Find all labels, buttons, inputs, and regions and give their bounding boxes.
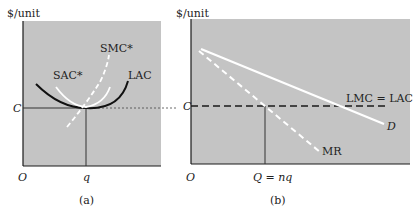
panel-b-y-axis-label: $/unit xyxy=(176,8,209,19)
panel-b-q-label: Q = nq xyxy=(253,172,292,183)
panel-a-c-label: C xyxy=(13,103,21,114)
smc-label: SMC* xyxy=(100,43,133,54)
panel-b-caption: (b) xyxy=(270,195,286,206)
mr-label: MR xyxy=(322,146,342,157)
panel-a-caption: (a) xyxy=(79,195,94,206)
panel-a-y-axis-label: $/unit xyxy=(7,8,40,19)
lmc-lac-label: LMC = LAC xyxy=(346,93,413,104)
panel-a-origin-label: O xyxy=(18,172,27,183)
panel-b-origin-label: O xyxy=(186,172,195,183)
diagram-canvas xyxy=(0,0,418,214)
sac-label: SAC* xyxy=(53,70,82,81)
demand-label: D xyxy=(387,121,396,132)
lac-label: LAC xyxy=(128,70,152,81)
panel-b-c-label: C xyxy=(183,101,191,112)
panel-a-q-label: q xyxy=(83,172,90,183)
